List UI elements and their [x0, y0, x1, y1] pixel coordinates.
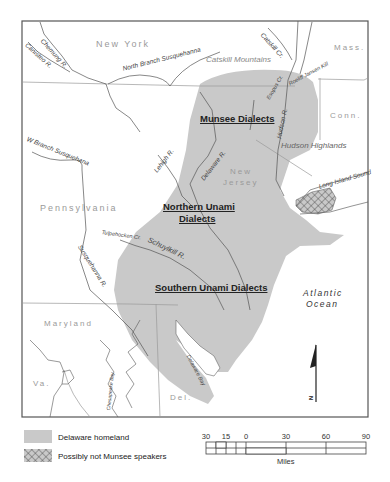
label-virginia: Va. — [33, 380, 50, 388]
scale-tick-90: 90 — [362, 432, 370, 441]
legend-swatch-crosshatch — [24, 449, 52, 462]
label-maryland: Maryland — [44, 320, 93, 328]
scale-tick-30: 30 — [282, 432, 290, 441]
label-atlantic-ocean-line1: Atlantic — [303, 289, 343, 298]
label-southern-unami-dialects: Southern Unami Dialects — [155, 283, 267, 293]
label-new-york: New York — [96, 40, 150, 49]
legend-label-crosshatch: Possibly not Munsee speakers — [58, 452, 167, 461]
label-pennsylvania: Pennsylvania — [40, 204, 118, 213]
scale-bar — [206, 442, 366, 454]
scale-tick-60: 60 — [322, 432, 330, 441]
label-munsee-dialects: Munsee Dialects — [200, 114, 274, 124]
label-hudson-highlands: Hudson Highlands — [281, 142, 346, 150]
scale-tick-15: 15 — [222, 432, 230, 441]
scale-unit-label: Miles — [277, 457, 295, 466]
north-arrow — [310, 344, 316, 402]
label-new-jersey-line2: Jersey — [223, 179, 259, 187]
legend-label-homeland: Delaware homeland — [58, 433, 129, 442]
label-mass: Mass. — [334, 44, 365, 52]
legend-swatch-homeland — [24, 430, 52, 443]
label-atlantic-ocean-line2: Ocean — [306, 300, 339, 309]
map-canvas — [0, 0, 390, 482]
label-new-jersey-line1: New — [230, 168, 252, 176]
chesapeake-bay-shoreline — [30, 320, 140, 417]
scale-tick-0: 0 — [244, 432, 248, 441]
label-catskill-mountains: Catskill Mountains — [206, 56, 271, 64]
possibly-not-munsee-area — [296, 188, 336, 214]
label-delaware: Del. — [170, 394, 192, 402]
label-northern-unami-line1: Northern Unami — [163, 202, 235, 212]
label-northern-unami-line2: Dialects — [179, 214, 215, 224]
north-arrow-label: N — [308, 396, 314, 400]
scale-tick-30-left: 30 — [202, 432, 210, 441]
label-conn: Conn. — [330, 112, 361, 120]
